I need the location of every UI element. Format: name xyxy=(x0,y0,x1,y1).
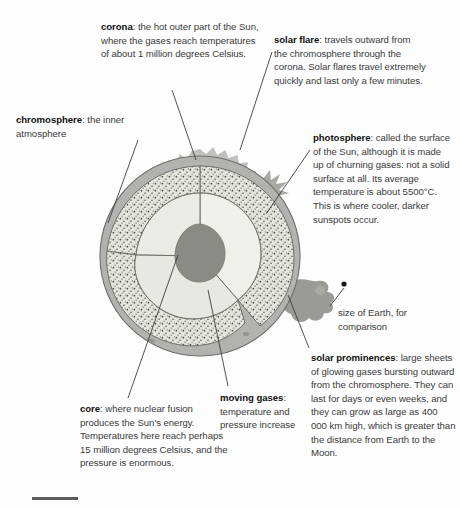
leader-core xyxy=(128,255,178,398)
core-region xyxy=(175,224,225,282)
callout-earth-size-body: size of Earth, for comparison xyxy=(338,307,407,332)
callout-moving-gases-term: moving gases xyxy=(220,392,283,403)
callout-photosphere-term: photosphere xyxy=(313,132,371,143)
callout-photosphere-body: : called the surface of the Sun, althoug… xyxy=(313,132,450,225)
solar-flare-feature xyxy=(260,170,289,211)
solar-prominence-feature xyxy=(283,279,335,322)
footer-rule xyxy=(32,497,78,500)
leader-prominences xyxy=(288,295,309,348)
callout-solar-flare-term: solar flare xyxy=(274,34,319,45)
callout-photosphere: photosphere: called the surface of the S… xyxy=(313,131,453,226)
callout-corona-term: corona xyxy=(101,21,133,32)
sunspots xyxy=(105,212,249,345)
leader-chromosphere xyxy=(108,140,138,223)
size-of-earth-dot xyxy=(341,281,346,286)
callout-solar-prominences-body: : large sheets of glowing gases bursting… xyxy=(311,352,455,458)
leader-photosphere xyxy=(266,150,310,214)
callout-core: core: where nuclear fusion produces the … xyxy=(80,402,228,470)
leader-earth-size xyxy=(330,288,344,306)
leader-corona xyxy=(172,90,196,160)
callout-chromosphere-term: chromosphere xyxy=(16,114,82,125)
callout-chromosphere: chromosphere: the inner atmosphere xyxy=(16,113,166,140)
callout-solar-prominences: solar prominences: large sheets of glowi… xyxy=(311,351,456,460)
callout-earth-size: size of Earth, for comparison xyxy=(338,306,448,333)
leader-lines xyxy=(108,52,344,398)
radiative-zone xyxy=(135,193,261,319)
leader-moving-gases xyxy=(208,290,228,386)
callout-core-body: : where nuclear fusion produces the Sun'… xyxy=(80,403,228,468)
sun-diagram-figure: corona: the hot outer part of the Sun, w… xyxy=(0,0,460,508)
callout-solar-flare: solar flare: travels outward from the ch… xyxy=(274,33,426,87)
callout-solar-prominences-term: solar prominences xyxy=(311,352,395,363)
callout-moving-gases: moving gases: temperature and pressure i… xyxy=(220,391,310,432)
corona-layer xyxy=(148,147,266,256)
leader-solar-flare xyxy=(240,52,272,150)
photosphere-disc xyxy=(100,156,300,356)
convection-zone xyxy=(107,166,294,346)
callout-core-term: core xyxy=(80,403,100,414)
callout-corona: corona: the hot outer part of the Sun, w… xyxy=(101,20,261,61)
